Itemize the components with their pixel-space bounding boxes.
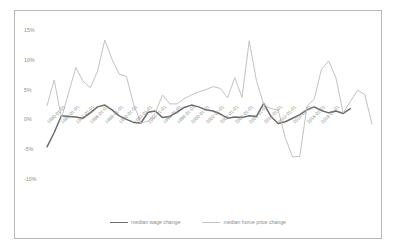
legend-label-median-home-price-change: median home price change [223,219,286,225]
chart-screenshot: 15%10%5%0%-5%-10% 1980-01-011982-01-0119… [0,0,397,251]
y-tick-label: 0% [24,116,32,122]
y-tick-label: 10% [24,57,35,63]
y-tick-label: 5% [24,87,32,93]
line-swatch-dark-icon [110,222,128,223]
line-swatch-light-icon [202,222,220,223]
line-chart-canvas [15,11,383,240]
plot-area [15,11,381,238]
series-line-median-home-price-change [47,40,372,157]
y-tick-label: 15% [24,27,35,33]
legend-item-median-wage-change[interactable]: median wage change [110,219,180,225]
legend-item-median-home-price-change[interactable]: median home price change [202,219,286,225]
chart-frame: 15%10%5%0%-5%-10% 1980-01-011982-01-0119… [14,10,382,239]
y-tick-label: -10% [24,176,37,182]
legend-label-median-wage-change: median wage change [131,219,180,225]
chart-legend: median wage change median home price cha… [15,219,381,225]
y-tick-label: -5% [24,146,34,152]
